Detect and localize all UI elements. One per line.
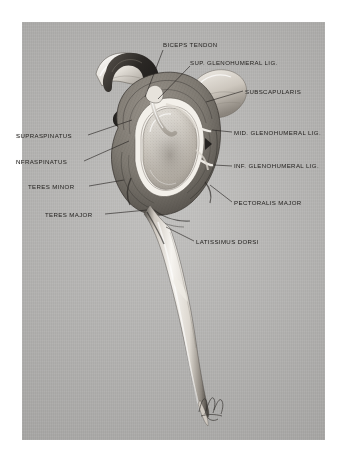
label-latissimus-dorsi: LATISSIMUS DORSI [196,239,259,245]
label-mid-glenohumeral-lig: MID. GLENOHUMERAL LIG. [234,130,321,136]
anatomical-figure: BICEPS TENDON SUP. GLENOHUMERAL LIG. SUB… [0,0,347,463]
label-subscapularis: SUBSCAPULARIS [245,89,301,95]
label-teres-major: TERES MAJOR [45,212,93,218]
label-teres-minor: TERES MINOR [28,184,75,190]
shoulder-illustration [0,0,347,463]
label-inf-glenohumeral-lig: INF. GLENOHUMERAL LIG. [234,163,319,169]
label-sup-glenohumeral-lig: SUP. GLENOHUMERAL LIG. [190,60,278,66]
label-infraspinatus: NFRASPINATUS [16,159,67,165]
label-pectoralis-major: PECTORALIS MAJOR [234,200,302,206]
label-biceps-tendon: BICEPS TENDON [163,42,218,48]
label-supraspinatus: SUPRASPINATUS [16,133,72,139]
